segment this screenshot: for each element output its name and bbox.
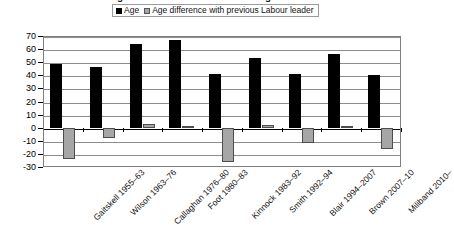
bar-group	[202, 36, 242, 167]
bar-group	[123, 36, 163, 167]
bar-age-difference	[302, 128, 314, 144]
y-axis-tick-label: -10	[23, 136, 36, 145]
bar-age	[368, 75, 380, 127]
bar-age-difference	[381, 128, 393, 149]
bar-age-difference	[143, 124, 155, 128]
chart-legend: Age Age difference with previous Labour …	[112, 4, 319, 17]
y-axis-tick-label: 20	[26, 97, 36, 106]
bar-group	[162, 36, 202, 167]
bar-group	[242, 36, 282, 167]
y-axis-tick-label: 70	[26, 32, 36, 41]
bar-age-difference	[182, 126, 194, 128]
bar-age	[169, 40, 181, 128]
bar-age	[249, 58, 261, 127]
bar-age	[289, 74, 301, 128]
bar-age	[130, 44, 142, 128]
bar-age-difference	[341, 126, 353, 128]
y-axis-tick-label: 30	[26, 84, 36, 93]
bar-group	[83, 36, 123, 167]
legend-swatch-age-icon	[116, 8, 122, 14]
bar-age-difference	[262, 125, 274, 128]
bars-layer	[43, 36, 401, 167]
y-axis-tick-label: 10	[26, 110, 36, 119]
legend-swatch-age-difference-icon	[144, 8, 150, 14]
y-axis-tick-label: -20	[23, 149, 36, 158]
bar-age	[90, 67, 102, 127]
legend-label-age: Age	[124, 6, 139, 15]
bar-age-difference	[63, 128, 75, 159]
bar-group	[282, 36, 322, 167]
bar-group	[361, 36, 401, 167]
bar-age-difference	[222, 128, 234, 162]
x-axis: Gaitskell 1955–63Wilson 1963–76Callaghan…	[43, 168, 401, 235]
bar-age	[50, 64, 62, 128]
bar-group	[43, 36, 83, 167]
legend-entry-age-difference: Age difference with previous Labour lead…	[144, 6, 313, 15]
chart-title: Ages of Labour leaders on taking office	[0, 0, 411, 2]
y-axis-tick-label: 50	[26, 58, 36, 67]
bar-age	[209, 74, 221, 128]
y-axis-tick-label: 0	[31, 123, 36, 132]
y-axis-tick-label: 60	[26, 45, 36, 54]
y-axis-tick-label: 40	[26, 71, 36, 80]
x-axis-tick	[401, 128, 402, 132]
bar-group	[321, 36, 361, 167]
bar-age-difference	[103, 128, 115, 138]
legend-entry-age: Age	[116, 6, 139, 15]
y-axis-tick-label: -30	[23, 163, 36, 172]
legend-label-age-difference: Age difference with previous Labour lead…	[152, 6, 313, 15]
y-axis: 706050403020100-10-20-30	[0, 36, 43, 167]
bar-age	[328, 54, 340, 127]
